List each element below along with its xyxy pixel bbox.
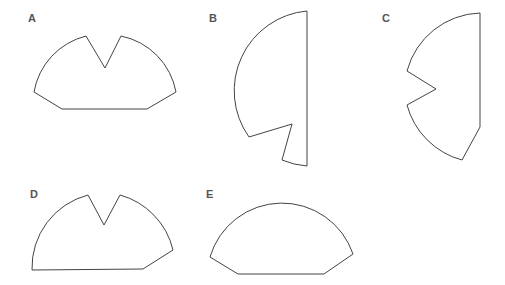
shape-e: [210, 203, 353, 274]
shape-a: [34, 36, 176, 109]
shape-b: [234, 11, 307, 166]
shape-c: [407, 13, 480, 160]
shapes-canvas: [0, 0, 505, 285]
shape-d: [32, 195, 173, 270]
